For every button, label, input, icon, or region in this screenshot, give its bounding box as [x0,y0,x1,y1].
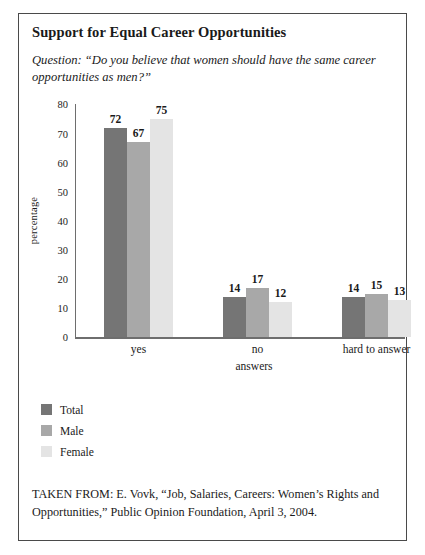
y-axis-tick-label: 0 [63,332,68,343]
y-axis-tick-label: 70 [58,128,69,139]
bar[interactable] [246,288,269,338]
bar-slot: 72 [104,104,127,337]
y-axis-label: percentage [26,104,42,337]
bar[interactable] [342,297,365,338]
x-axis-category-label: yes [131,343,146,355]
source-note: TAKEN FROM: E. Vovk, “Job, Salaries, Car… [32,486,394,521]
x-axis-line [75,337,405,338]
bar-value-label: 72 [110,113,122,125]
legend-swatch [41,404,52,415]
bar-slot: 15 [365,104,388,337]
bar[interactable] [127,142,150,337]
bar-value-label: 14 [229,282,241,294]
bar-slot: 14 [342,104,365,337]
bar-slot: 14 [223,104,246,337]
question-text: Question: “Do you believe that women sho… [32,52,394,87]
bar-value-label: 15 [371,279,383,291]
bar[interactable] [150,119,173,337]
bar-group: 726775yes [104,104,173,337]
legend-swatch [41,425,52,436]
bar-slot: 17 [246,104,269,337]
y-axis-ticks: 01020304050607080 [44,104,72,337]
x-axis-category-label: hard to answer [343,343,411,355]
bar-value-label: 17 [252,273,264,285]
y-axis-tick-label: 60 [58,157,69,168]
y-axis-tick-label: 80 [58,99,69,110]
bar-group-bars: 141712 [223,104,292,337]
bar-value-label: 14 [348,282,360,294]
bar-group-bars: 141513 [342,104,411,337]
bar-group-bars: 726775 [104,104,173,337]
chart-legend: TotalMaleFemale [41,401,394,460]
legend-item[interactable]: Male [41,422,394,439]
y-axis-label-text: percentage [29,197,40,244]
legend-swatch [41,446,52,457]
bar-value-label: 67 [133,127,145,139]
bar-chart: percentage 01020304050607080 726775yes14… [32,104,394,349]
bar-slot: 12 [269,104,292,337]
bar-value-label: 75 [156,104,168,116]
bar-slot: 13 [388,104,411,337]
x-axis-label: answers [236,360,273,372]
bar-groups: 726775yes141712no141513hard to answer [76,104,394,337]
legend-item[interactable]: Female [41,443,394,460]
legend-item-label: Female [60,446,94,458]
y-axis-tick-label: 40 [58,215,69,226]
bar-slot: 75 [150,104,173,337]
bar[interactable] [104,128,127,338]
y-axis-tick-label: 30 [58,245,69,256]
page-title: Support for Equal Career Opportunities [32,24,394,41]
bar[interactable] [223,297,246,338]
y-axis-tick-label: 50 [58,186,69,197]
y-axis-tick-label: 20 [58,274,69,285]
legend-item-label: Male [60,425,84,437]
bar[interactable] [269,302,292,337]
x-axis-category-label: no [252,343,264,355]
bar-value-label: 13 [394,285,406,297]
bar-value-label: 12 [275,287,287,299]
bar-slot: 67 [127,104,150,337]
bar[interactable] [365,294,388,338]
y-axis-tick-label: 10 [58,303,69,314]
bar-group: 141513hard to answer [342,104,411,337]
bar[interactable] [388,300,411,338]
figure-frame: Support for Equal Career Opportunities Q… [18,13,407,541]
legend-item-label: Total [60,404,83,416]
bar-group: 141712no [223,104,292,337]
legend-item[interactable]: Total [41,401,394,418]
